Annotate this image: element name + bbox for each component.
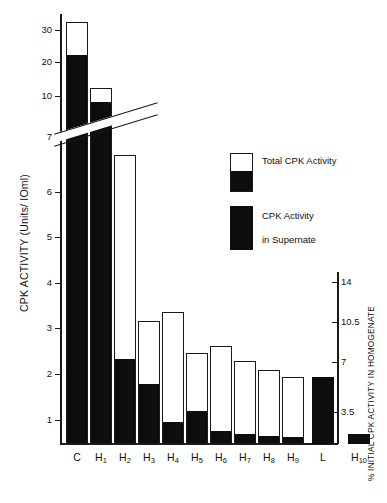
- x-label-H10-sub: 10: [359, 456, 367, 465]
- bar-supernate-H4: [163, 422, 183, 443]
- legend-swatch-supernate: [230, 206, 253, 250]
- y-tick-label-6: 6: [22, 187, 52, 197]
- y-tick-1: [55, 420, 61, 421]
- x-label-H2-base: H: [119, 451, 127, 463]
- y-tick-label-4: 4: [22, 278, 52, 288]
- bar-supernate-H6: [211, 431, 231, 443]
- legend-label-supernate-line2: in Supernate: [262, 234, 316, 246]
- x-label-H4-base: H: [167, 451, 175, 463]
- x-label-H8-sub: 8: [271, 456, 275, 465]
- bar-total-H7: [234, 361, 256, 444]
- bar-supernate-H9: [283, 437, 303, 443]
- y-tick-2: [55, 374, 61, 375]
- y-right-tick-10-5: [332, 322, 338, 323]
- bar-total-H5: [186, 353, 208, 444]
- y-tick-label-30: 30: [22, 25, 52, 35]
- x-label-H7-sub: 7: [247, 456, 251, 465]
- bar-supernate-H7: [235, 434, 255, 443]
- x-label-H5-base: H: [191, 451, 199, 463]
- y-right-tick-label-3-5: 3.5: [341, 407, 375, 417]
- y-tick-3: [55, 328, 61, 329]
- y-right-tick-label-7: 7: [341, 357, 375, 367]
- x-label-H2-sub: 2: [127, 456, 131, 465]
- x-label-H8-base: H: [263, 451, 271, 463]
- bar-total-H4: [162, 312, 184, 444]
- x-label-H4-sub: 4: [175, 456, 179, 465]
- bar-total-H6: [210, 346, 232, 444]
- x-label-H10: H10: [342, 452, 376, 464]
- x-label-H10-base: H: [351, 451, 359, 463]
- x-label-H6-base: H: [215, 451, 223, 463]
- x-label-H7-base: H: [239, 451, 247, 463]
- x-label-H9-sub: 9: [295, 456, 299, 465]
- bar-total-H2: [114, 155, 136, 444]
- bar-supernate-H10: [348, 434, 370, 444]
- bar-supernate-C: [67, 55, 87, 443]
- y-tick-5: [55, 237, 61, 238]
- y-tick-label-2: 2: [22, 369, 52, 379]
- x-label-H1-sub: 1: [103, 456, 107, 465]
- x-label-H5-sub: 5: [199, 456, 203, 465]
- legend-label-total: Total CPK Activity: [262, 155, 336, 167]
- cpk-activity-bar-chart: CPK ACTIVITY (Units/ IOml) % INITIAL CPK…: [0, 0, 387, 503]
- legend-swatch-total: [230, 153, 253, 192]
- y-tick-label-10: 10: [22, 91, 52, 101]
- y-tick-30: [55, 30, 61, 31]
- bar-total-H1: [90, 88, 112, 444]
- x-label-H3-base: H: [143, 451, 151, 463]
- x-label-H9: H9: [276, 452, 310, 464]
- bar-total-H8: [258, 370, 280, 444]
- bar-supernate-H1: [91, 102, 111, 443]
- legend-swatch-total-fill: [231, 171, 252, 191]
- legend-label-supernate-line1: CPK Activity: [262, 210, 314, 222]
- y-axis-left-title: CPK ACTIVITY (Units/ IOml): [18, 143, 30, 343]
- y-right-tick-label-10-5: 10.5: [341, 317, 375, 327]
- bar-supernate-L: [312, 377, 334, 444]
- x-label-L: L: [306, 452, 340, 464]
- bar-supernate-H5: [187, 411, 207, 443]
- y-tick-10: [55, 96, 61, 97]
- bar-total-H3: [138, 321, 160, 444]
- x-label-H9-base: H: [287, 451, 295, 463]
- y-right-tick-7: [332, 362, 338, 363]
- y-axis-left-line: [60, 14, 62, 444]
- y-tick-20: [55, 62, 61, 63]
- y-tick-label-7: 7: [22, 132, 52, 142]
- x-label-C-base: C: [73, 451, 81, 463]
- bar-supernate-H8: [259, 436, 279, 443]
- y-tick-6: [55, 192, 61, 193]
- bar-supernate-H3: [139, 384, 159, 443]
- x-label-H1-base: H: [95, 451, 103, 463]
- y-tick-label-20: 20: [22, 57, 52, 67]
- x-label-L-base: L: [320, 451, 326, 463]
- y-tick-label-5: 5: [22, 232, 52, 242]
- x-label-H6-sub: 6: [223, 456, 227, 465]
- bar-supernate-H2: [115, 359, 135, 443]
- y-right-tick-14: [332, 282, 338, 283]
- y-tick-label-3: 3: [22, 323, 52, 333]
- bar-total-C: [66, 22, 88, 444]
- y-tick-label-1: 1: [22, 415, 52, 425]
- y-tick-4: [55, 283, 61, 284]
- bar-total-H9: [282, 377, 304, 444]
- y-axis-right-title: % INITIAL CPK ACTIVITY IN HOMOGENATE: [367, 279, 376, 503]
- y-right-tick-label-14: 14: [341, 277, 375, 287]
- x-label-H3-sub: 3: [151, 456, 155, 465]
- y-axis-right-line: [337, 272, 339, 444]
